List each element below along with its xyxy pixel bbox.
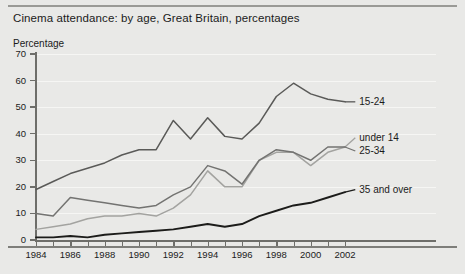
series-label-35-and-over: 35 and over bbox=[359, 184, 412, 195]
series-leader-line bbox=[345, 190, 355, 193]
series-label-15-24: 15-24 bbox=[359, 96, 385, 107]
series-leader-line bbox=[345, 138, 355, 147]
series-label-under-14: under 14 bbox=[359, 132, 398, 143]
series-line-15-24 bbox=[36, 83, 345, 189]
bottom-rule bbox=[8, 246, 457, 248]
series-leader-line bbox=[345, 147, 355, 151]
series-line-under-14 bbox=[36, 147, 345, 229]
series-label-25-34: 25-34 bbox=[359, 145, 385, 156]
chart-figure: Cinema attendance: by age, Great Britain… bbox=[0, 0, 465, 274]
series-line-25-34 bbox=[36, 147, 345, 216]
